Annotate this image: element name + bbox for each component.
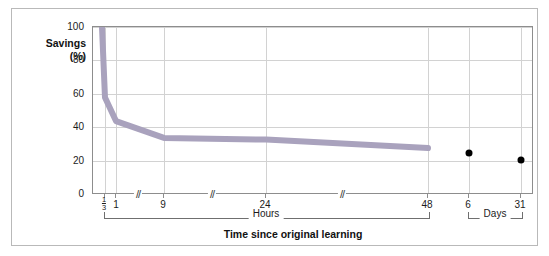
x-tickmark-31d [520, 194, 521, 198]
x-tick-label-1h: 1 [113, 199, 119, 210]
y-axis-label-line1: Savings [46, 37, 86, 49]
figure-frame: Savings (%) 100 80 60 40 20 0 [11, 8, 538, 246]
plot-area [92, 26, 533, 194]
axis-break-mark-2: // [208, 190, 216, 198]
y-tick-20: 20 [52, 155, 84, 166]
x-tickmark-48h [427, 194, 428, 198]
axis-break-mark-1: // [134, 190, 142, 198]
days-group-label: Days [480, 208, 511, 219]
x-tickmark-6d [468, 194, 469, 198]
y-tick-40: 40 [52, 121, 84, 132]
hours-group-label: Hours [249, 208, 284, 219]
x-tickmark-1h [115, 194, 116, 198]
x-tick-label-third: 1 3 [102, 197, 106, 212]
fraction-numerator: 1 [102, 196, 106, 203]
x-tick-label-9h: 9 [160, 199, 166, 210]
x-tick-label-6d: 6 [465, 199, 471, 210]
y-tick-100: 100 [52, 21, 84, 32]
y-tick-80: 80 [52, 54, 84, 65]
data-point-31-days [518, 156, 525, 163]
fraction-one-third: 1 3 [102, 196, 106, 211]
axis-break-mark-3: // [338, 190, 346, 198]
y-tick-60: 60 [52, 88, 84, 99]
x-tickmark-24h [265, 194, 266, 198]
data-point-6-days [466, 150, 473, 157]
x-axis-title: Time since original learning [224, 228, 363, 240]
x-tickmark-9h [163, 194, 164, 198]
forgetting-curve [93, 27, 534, 195]
x-tick-label-48h: 48 [421, 199, 432, 210]
fraction-denominator: 3 [102, 203, 106, 211]
x-tick-label-31d: 31 [514, 199, 525, 210]
y-tick-0: 0 [52, 188, 84, 199]
